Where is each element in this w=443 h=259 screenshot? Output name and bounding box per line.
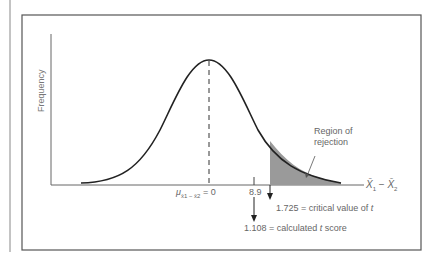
region-pointer-line: [307, 156, 315, 176]
arrowhead-icon: [251, 215, 257, 222]
chart-canvas: [0, 0, 443, 259]
region-of-rejection-label: Region of rejection: [314, 126, 353, 148]
x-axis-label: X̄1 − X̄2: [366, 180, 397, 192]
critical-value-label: 1.725 = critical value of t: [276, 204, 373, 213]
calculated-t-label: 1.108 = calculated t score: [244, 224, 347, 233]
y-axis-label: Frequency: [36, 69, 46, 112]
mean-label: μx̄1 − x̄2 = 0: [176, 188, 216, 199]
figure-frame: [22, 15, 421, 250]
tick-label-8-9: 8.9: [249, 188, 262, 197]
arrowhead-icon: [267, 193, 273, 200]
bell-curve: [81, 60, 341, 183]
